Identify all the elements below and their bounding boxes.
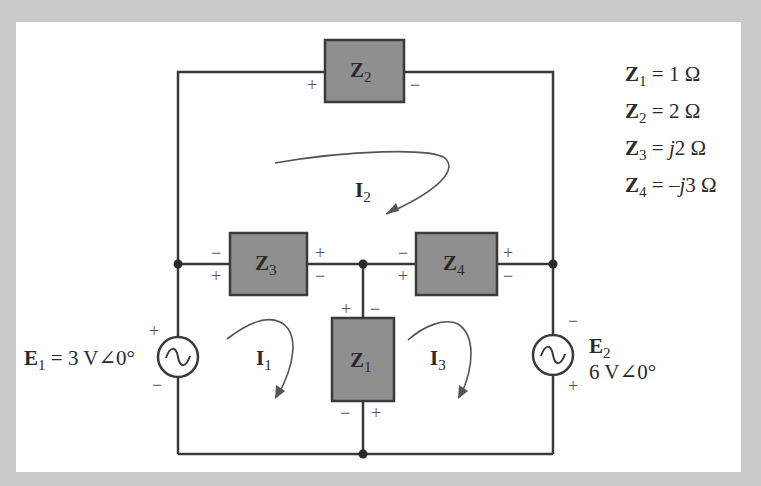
z4-bottom-left-plus: + [398,267,408,285]
z2-plus-sign: + [307,76,317,94]
e2-plus-sign: + [568,377,578,395]
z2-minus-sign: − [410,76,420,94]
ac-source-e2-icon [533,335,573,375]
e1-minus-sign: − [152,376,162,394]
i1-sub: 1 [264,357,272,373]
i2-sub: 2 [363,189,371,205]
z1-label: Z1 [350,350,372,375]
z2-symbol: Z [350,58,364,82]
arrowhead-i3-icon [458,385,468,399]
e2-value-label: 6 V∠0° [589,362,656,383]
z4-top-right-plus: + [503,244,513,262]
z4-bottom-right-minus: − [503,267,513,285]
legend-z4-symbol: Z [625,173,639,197]
z3-bottom-left-plus: + [211,267,221,285]
z1-top-minus: − [370,300,380,318]
ac-source-e1-icon [158,337,198,377]
legend-z3: Z3 = j2 Ω [625,138,706,163]
e1-symbol: E [24,346,38,370]
z1-top-plus: + [341,300,351,318]
i3-label: I3 [430,348,446,373]
e1-value: = 3 V∠0° [51,346,135,370]
legend-z3-symbol: Z [625,136,639,160]
legend-z3-sub: 3 [639,147,647,163]
z3-top-right-plus: + [315,244,325,262]
e1-plus-sign: + [149,322,159,340]
legend-z3-prefix: = [652,136,669,160]
z3-label: Z3 [255,253,277,278]
i2-label: I2 [355,180,371,205]
z3-top-left-minus: − [211,244,221,262]
e2-sub: 2 [603,345,611,361]
e2-minus-sign: − [568,312,578,330]
legend-z4-sub: 4 [639,184,647,200]
legend-z4-prefix: = – [652,173,680,197]
z3-bottom-right-minus: − [315,267,325,285]
z2-sub: 2 [364,69,372,85]
e1-label: E1 = 3 V∠0° [24,348,135,373]
legend-z4: Z4 = –j3 Ω [625,175,717,200]
z1-sub: 1 [364,359,372,375]
z1-bottom-plus: + [371,404,381,422]
i1-symbol: I [256,346,264,370]
legend-z4-value: 3 Ω [685,173,716,197]
arrowhead-i1-icon [275,385,285,399]
i3-symbol: I [430,346,438,370]
legend-z2-value: = 2 Ω [652,99,700,123]
i1-label: I1 [256,348,272,373]
legend-z1-value: = 1 Ω [652,62,700,86]
z3-symbol: Z [255,251,269,275]
z4-sub: 4 [457,262,465,278]
z1-symbol: Z [350,348,364,372]
legend-z2-symbol: Z [625,99,639,123]
legend-z1-symbol: Z [625,62,639,86]
z4-symbol: Z [443,251,457,275]
legend-z2-sub: 2 [639,110,647,126]
e2-symbol-label: E2 [589,336,611,361]
legend-z1: Z1 = 1 Ω [625,64,700,89]
legend-z2: Z2 = 2 Ω [625,101,700,126]
z4-top-left-minus: − [398,244,408,262]
legend-z3-value: 2 Ω [675,136,706,160]
z4-label: Z4 [443,253,465,278]
i2-symbol: I [355,178,363,202]
arrowhead-i2-icon [386,203,399,214]
legend-z1-sub: 1 [639,73,647,89]
z1-bottom-minus: − [340,404,350,422]
e2-symbol: E [589,334,603,358]
i3-sub: 3 [438,357,446,373]
z3-sub: 3 [269,262,277,278]
z2-label: Z2 [350,60,372,85]
e1-sub: 1 [38,357,46,373]
